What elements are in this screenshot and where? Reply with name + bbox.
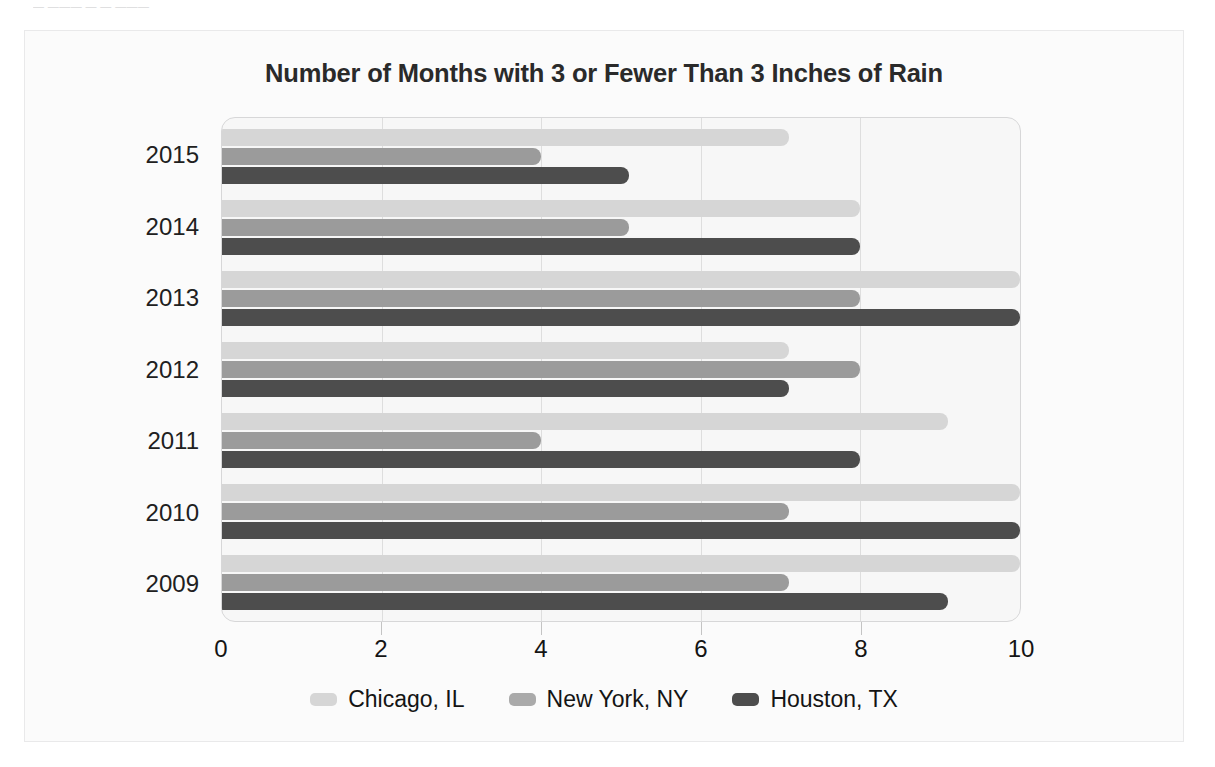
bar-2015-new-york	[222, 148, 541, 165]
y-axis-labels: 2015201420132012201120102009	[85, 117, 213, 622]
bar-group-2012	[222, 335, 1020, 403]
bar-2012-chicago	[222, 342, 789, 359]
bar-2013-new-york	[222, 290, 860, 307]
bar-2014-chicago	[222, 200, 860, 217]
bar-rows	[222, 118, 1020, 621]
x-axis-tick-2	[381, 622, 382, 635]
bar-2015-chicago	[222, 129, 789, 146]
legend-swatch-icon	[732, 693, 759, 706]
y-axis-label-2010: 2010	[85, 479, 213, 547]
x-axis-tick-4	[541, 622, 542, 635]
x-axis-label-2: 2	[374, 635, 387, 663]
legend-label: Chicago, IL	[348, 686, 464, 713]
bar-2010-chicago	[222, 484, 1020, 501]
x-axis-labels: 0246810	[221, 635, 1021, 669]
bar-group-2011	[222, 407, 1020, 475]
y-axis-label-2009: 2009	[85, 550, 213, 618]
bar-group-2013	[222, 264, 1020, 332]
bar-2011-chicago	[222, 413, 948, 430]
bar-2011-houston	[222, 451, 860, 468]
y-axis-label-2013: 2013	[85, 264, 213, 332]
bar-group-2015	[222, 122, 1020, 190]
bar-2010-new-york	[222, 503, 789, 520]
legend-item-new-york[interactable]: New York, NY	[509, 686, 689, 713]
chart-legend: Chicago, ILNew York, NYHouston, TX	[25, 686, 1183, 713]
legend-label: Houston, TX	[770, 686, 897, 713]
page-top-text-fragment: — ——— — — ———	[33, 0, 243, 10]
legend-item-houston[interactable]: Houston, TX	[732, 686, 897, 713]
x-axis-tick-8	[861, 622, 862, 635]
x-axis-tick-6	[701, 622, 702, 635]
bar-2011-new-york	[222, 432, 541, 449]
x-axis-label-10: 10	[1008, 635, 1035, 663]
chart-title: Number of Months with 3 or Fewer Than 3 …	[25, 59, 1183, 88]
x-axis-ticks	[221, 622, 1021, 636]
bar-2009-chicago	[222, 555, 1020, 572]
bar-group-2010	[222, 478, 1020, 546]
y-axis-label-2014: 2014	[85, 193, 213, 261]
bar-2010-houston	[222, 522, 1020, 539]
bar-group-2009	[222, 549, 1020, 617]
bar-2014-new-york	[222, 219, 629, 236]
bar-2014-houston	[222, 238, 860, 255]
bar-2012-new-york	[222, 361, 860, 378]
x-axis-label-8: 8	[854, 635, 867, 663]
x-axis-label-6: 6	[694, 635, 707, 663]
bar-2013-houston	[222, 309, 1020, 326]
x-axis-label-4: 4	[534, 635, 547, 663]
bar-2009-houston	[222, 593, 948, 610]
x-axis-label-0: 0	[214, 635, 227, 663]
bar-group-2014	[222, 193, 1020, 261]
y-axis-label-2012: 2012	[85, 336, 213, 404]
y-axis-label-2011: 2011	[85, 407, 213, 475]
plot-area	[221, 117, 1021, 622]
y-axis-label-2015: 2015	[85, 121, 213, 189]
legend-label: New York, NY	[547, 686, 689, 713]
gridline-10	[1020, 118, 1021, 621]
plot-wrapper	[221, 117, 1021, 622]
bar-2009-new-york	[222, 574, 789, 591]
bar-2013-chicago	[222, 271, 1020, 288]
bar-2015-houston	[222, 167, 629, 184]
legend-swatch-icon	[509, 693, 536, 706]
bar-2012-houston	[222, 380, 789, 397]
legend-item-chicago[interactable]: Chicago, IL	[310, 686, 464, 713]
legend-swatch-icon	[310, 693, 337, 706]
chart-card: Number of Months with 3 or Fewer Than 3 …	[24, 30, 1184, 742]
